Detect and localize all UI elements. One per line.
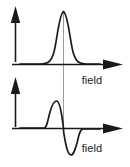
- absorption-curve: [20, 12, 100, 65]
- bottom-field-label: field: [82, 142, 103, 154]
- arrow-up-icon: [11, 6, 20, 23]
- spectrum-figure: field field: [0, 0, 130, 167]
- arrow-up-icon: [11, 77, 20, 94]
- derivative-panel: field: [11, 77, 123, 155]
- arrow-right-icon: [103, 59, 123, 69]
- derivative-intensity-axis: [11, 77, 20, 127]
- arrow-right-icon: [103, 123, 123, 133]
- top-field-label: field: [82, 74, 103, 86]
- absorption-panel: field: [11, 6, 123, 86]
- absorption-intensity-axis: [11, 6, 20, 62]
- figure-canvas: field field: [0, 0, 130, 167]
